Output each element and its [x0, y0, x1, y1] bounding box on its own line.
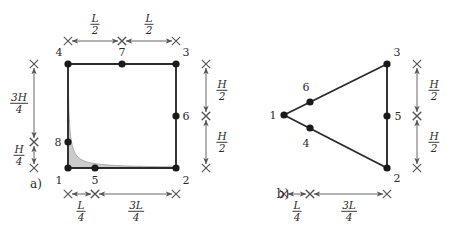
node-label-b-1: 1 — [270, 109, 277, 122]
dimension-b-right-upper — [413, 60, 421, 120]
node-a-3[interactable] — [172, 60, 179, 67]
dimension-endpoint-tick — [30, 164, 38, 172]
shaded-region-group — [68, 66, 176, 168]
dimension-label-b-right-lower: H2 — [428, 131, 439, 153]
node-b-3[interactable] — [383, 60, 390, 67]
node-label-b-4: 4 — [303, 137, 310, 150]
dimension-a-right-upper — [202, 60, 210, 120]
node-b-4[interactable] — [306, 124, 313, 131]
panel-label-b: b) — [277, 187, 289, 201]
dimension-label-a-bottom-left: L4 — [77, 200, 86, 222]
dimension-endpoint-tick — [91, 190, 99, 198]
dimension-label-b-bottom-left: L4 — [293, 200, 302, 222]
node-a-4[interactable] — [64, 60, 71, 67]
node-a-2[interactable] — [172, 164, 179, 171]
dimension-label-a-top-right: L2 — [145, 13, 154, 35]
dimension-endpoint-tick — [30, 138, 38, 146]
dimension-a-bottom-left — [64, 190, 99, 198]
dimension-label-a-bottom-right: 3L4 — [128, 200, 144, 222]
dimension-label-a-left-upper: 3H4 — [10, 92, 28, 114]
dimension-label-b-right-upper: H2 — [428, 79, 439, 101]
dimension-endpoint-tick — [202, 112, 210, 120]
node-label-a-8: 8 — [55, 136, 62, 149]
node-b-1[interactable] — [280, 111, 287, 118]
dimension-endpoint-tick — [172, 190, 180, 198]
node-label-a-5: 5 — [92, 174, 99, 187]
node-label-b-2: 2 — [394, 172, 401, 185]
dimension-endpoint-tick — [413, 112, 421, 120]
dimension-a-left-upper — [30, 60, 38, 146]
dimension-b-right-lower — [413, 112, 421, 172]
node-a-1[interactable] — [64, 164, 71, 171]
dimension-endpoint-tick — [202, 60, 210, 68]
dimension-endpoint-tick — [413, 164, 421, 172]
node-a-8[interactable] — [64, 138, 71, 145]
dimension-a-right-lower — [202, 112, 210, 172]
dimension-label-b-bottom-right: 3L4 — [341, 200, 357, 222]
panel-label-a: a) — [30, 177, 42, 191]
dimension-endpoint-tick — [118, 37, 126, 45]
node-label-a-1: 1 — [56, 174, 63, 187]
node-label-a-6: 6 — [183, 110, 190, 123]
dimension-a-top-right — [118, 37, 180, 45]
dimension-endpoint-tick — [30, 60, 38, 68]
node-label-b-5: 5 — [395, 110, 402, 123]
node-label-b-6: 6 — [303, 81, 310, 94]
node-b-5[interactable] — [383, 112, 390, 119]
dimension-endpoint-tick — [64, 37, 72, 45]
dimension-endpoint-tick — [413, 60, 421, 68]
dimension-endpoint-tick — [383, 190, 391, 198]
dimension-label-a-top-left: L2 — [91, 13, 100, 35]
dimension-endpoint-tick — [306, 190, 314, 198]
edge-b-2-1 — [284, 115, 387, 168]
dimension-a-top-left — [64, 37, 126, 45]
dimension-a-left-lower — [30, 138, 38, 172]
node-b-2[interactable] — [383, 164, 390, 171]
dimension-label-a-right-lower: H2 — [216, 131, 227, 153]
dimension-a-bottom-right — [91, 190, 180, 198]
dimension-endpoint-tick — [64, 190, 72, 198]
node-label-a-7: 7 — [119, 46, 126, 59]
edge-b-1-3 — [284, 64, 387, 115]
node-label-a-4: 4 — [56, 46, 63, 59]
dimension-label-a-right-upper: H2 — [216, 79, 227, 101]
dimension-endpoint-tick — [202, 164, 210, 172]
node-a-6[interactable] — [172, 112, 179, 119]
node-label-a-2: 2 — [183, 174, 190, 187]
node-label-a-3: 3 — [183, 46, 190, 59]
dimension-label-a-left-lower: H4 — [13, 144, 24, 166]
node-label-b-3: 3 — [394, 46, 401, 59]
node-a-5[interactable] — [91, 164, 98, 171]
figure-canvas: L2L23H4H4H2H2L43L412345678a)H2H2L43L4123… — [0, 0, 454, 230]
dimension-b-bottom-right — [306, 190, 391, 198]
shaded-region-panel-a — [68, 66, 176, 168]
dimension-lines-group — [30, 37, 421, 198]
dimension-endpoint-tick — [172, 37, 180, 45]
element-nodes-group — [64, 60, 390, 171]
diagram-vector-layer — [0, 0, 454, 230]
node-a-7[interactable] — [118, 60, 125, 67]
node-b-6[interactable] — [306, 98, 313, 105]
